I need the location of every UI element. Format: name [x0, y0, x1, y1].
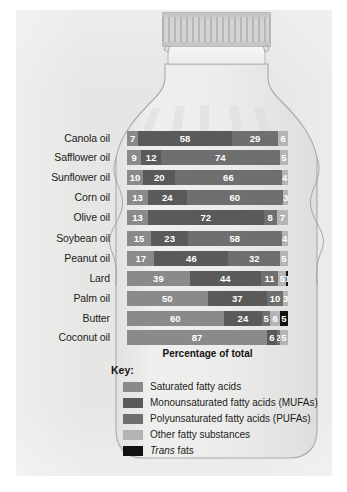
bar-safflower-oil: 912745	[127, 150, 288, 165]
category-label: Coconut oil	[0, 330, 110, 345]
category-label: Butter	[0, 311, 110, 326]
bar-segment-pufa: 32	[228, 251, 280, 266]
bar-segment-other: 6	[270, 311, 280, 326]
x-axis-caption: Percentage of total	[127, 348, 288, 359]
bar-segment-pufa: 60	[187, 190, 284, 205]
legend-label: Trans fats	[150, 445, 194, 456]
bar-segment-mufa: 6	[267, 330, 277, 345]
category-label: Peanut oil	[0, 251, 110, 266]
bar-segment-other: 3	[283, 291, 288, 306]
bar-segment-pufa: 5	[262, 311, 270, 326]
chart-row: Palm oil 5037103	[0, 291, 347, 306]
bar-segment-other: 4	[282, 231, 288, 246]
bar-corn-oil: 1324603	[127, 190, 288, 205]
bar-segment-mufa: 24	[148, 190, 187, 205]
bar-segment-other: 4	[282, 170, 288, 185]
bar-segment-sat: 9	[127, 150, 141, 165]
category-label: Soybean oil	[0, 231, 110, 246]
bar-peanut-oil: 1746325	[127, 251, 288, 266]
legend-label: Monounsaturated fatty acids (MUFAs)	[150, 397, 318, 408]
legend-swatch-sat	[123, 382, 143, 392]
legend-item: Monounsaturated fatty acids (MUFAs)	[111, 395, 307, 410]
bar-segment-pufa: 74	[161, 150, 280, 165]
chart-row: Soybean oil 1523584	[0, 231, 347, 246]
bar-segment-mufa: 23	[151, 231, 188, 246]
bar-segment-sat: 10	[127, 170, 143, 185]
chart-row: Butter 6024565	[0, 311, 347, 326]
bar-soybean-oil: 1523584	[127, 231, 288, 246]
bar-canola-oil: 758296	[127, 131, 288, 146]
bar-segment-sat: 13	[127, 210, 148, 225]
bar-segment-mufa: 44	[190, 271, 261, 286]
bar-segment-pufa: 10	[267, 291, 283, 306]
bar-segment-other: 6	[278, 131, 288, 146]
bar-segment-other: 5	[278, 271, 286, 286]
category-label: Safflower oil	[0, 150, 110, 165]
legend-swatch-trans	[123, 446, 143, 456]
chart-row: Coconut oil 87625	[0, 330, 347, 345]
bar-segment-pufa: 8	[264, 210, 277, 225]
legend: Key: Saturated fatty acidsMonounsaturate…	[111, 364, 307, 459]
category-label: Sunflower oil	[0, 170, 110, 185]
bar-segment-mufa: 72	[148, 210, 264, 225]
bar-segment-other: 7	[277, 210, 288, 225]
bar-segment-mufa: 24	[224, 311, 263, 326]
bar-segment-mufa: 37	[208, 291, 268, 306]
bar-segment-mufa: 12	[141, 150, 160, 165]
bar-segment-mufa: 20	[143, 170, 175, 185]
bar-segment-other: 3	[283, 190, 288, 205]
legend-items: Saturated fatty acidsMonounsaturated fat…	[111, 379, 307, 458]
chart-row: Canola oil 758296	[0, 131, 347, 146]
legend-label: Polyunsaturated fatty acids (PUFAs)	[150, 413, 311, 424]
bar-segment-sat: 15	[127, 231, 151, 246]
bar-segment-sat: 7	[127, 131, 138, 146]
legend-swatch-mufa	[123, 398, 143, 408]
bar-segment-sat: 87	[127, 330, 267, 345]
legend-item: Saturated fatty acids	[111, 379, 307, 394]
stacked-bar-chart: Canola oil 758296 Safflower oil 912745 S…	[0, 0, 347, 492]
bar-butter: 6024565	[127, 311, 288, 326]
bar-segment-other: 5	[280, 150, 288, 165]
bar-segment-sat: 60	[127, 311, 224, 326]
chart-row: Lard 39441151	[0, 271, 347, 286]
category-label: Olive oil	[0, 210, 110, 225]
legend-swatch-pufa	[123, 414, 143, 424]
bar-segment-sat: 13	[127, 190, 148, 205]
legend-label: Saturated fatty acids	[150, 381, 241, 392]
bar-lard: 39441151	[127, 271, 288, 286]
bar-segment-sat: 39	[127, 271, 190, 286]
bar-segment-mufa: 46	[154, 251, 228, 266]
legend-label: Other fatty substances	[150, 429, 250, 440]
chart-row: Sunflower oil 1020664	[0, 170, 347, 185]
category-label: Corn oil	[0, 190, 110, 205]
category-label: Palm oil	[0, 291, 110, 306]
bar-segment-sat: 50	[127, 291, 208, 306]
category-label: Canola oil	[0, 131, 110, 146]
bar-segment-sat: 17	[127, 251, 154, 266]
chart-row: Corn oil 1324603	[0, 190, 347, 205]
legend-item: Other fatty substances	[111, 427, 307, 442]
bar-segment-trans: 1	[286, 271, 288, 286]
figure-page: Canola oil 758296 Safflower oil 912745 S…	[0, 0, 347, 492]
legend-title: Key:	[111, 364, 307, 376]
bar-segment-pufa: 58	[188, 231, 281, 246]
bar-segment-trans: 5	[280, 311, 288, 326]
bar-olive-oil: 137287	[127, 210, 288, 225]
bar-segment-pufa: 11	[261, 271, 279, 286]
chart-row: Olive oil 137287	[0, 210, 347, 225]
bar-sunflower-oil: 1020664	[127, 170, 288, 185]
bar-coconut-oil: 87625	[127, 330, 288, 345]
bar-palm-oil: 5037103	[127, 291, 288, 306]
legend-item: Trans fats	[111, 443, 307, 458]
bar-segment-pufa: 29	[232, 131, 279, 146]
legend-item: Polyunsaturated fatty acids (PUFAs)	[111, 411, 307, 426]
category-label: Lard	[0, 271, 110, 286]
legend-swatch-other	[123, 430, 143, 440]
chart-row: Peanut oil 1746325	[0, 251, 347, 266]
bar-segment-other: 5	[280, 251, 288, 266]
bar-segment-pufa: 66	[175, 170, 281, 185]
bar-segment-other: 5	[280, 330, 288, 345]
bar-segment-mufa: 58	[138, 131, 231, 146]
chart-row: Safflower oil 912745	[0, 150, 347, 165]
